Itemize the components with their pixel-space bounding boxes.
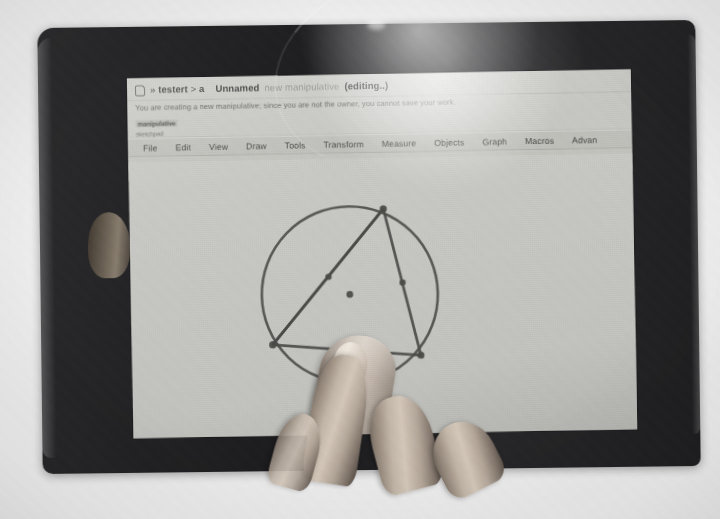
menu-item-macros[interactable]: Macros — [516, 135, 563, 146]
photograph: » testert > a Unnamed new manipulative (… — [0, 0, 720, 519]
menu-item-objects[interactable]: Objects — [425, 137, 473, 148]
glass-specular-highlight — [367, 20, 385, 30]
menu-item-graph[interactable]: Graph — [473, 136, 516, 147]
breadcrumb-user[interactable]: testert — [158, 83, 188, 95]
breadcrumb-separator: > — [191, 83, 197, 94]
app-logo-icon — [135, 84, 145, 95]
geometry-point-center-O[interactable] — [346, 291, 353, 298]
document-subtitle: new manipulative — [264, 80, 339, 92]
breadcrumb-item[interactable]: a — [199, 83, 205, 94]
breadcrumb-arrow: » — [150, 83, 156, 94]
menu-item-edit[interactable]: Edit — [166, 142, 200, 153]
menu-item-tools[interactable]: Tools — [276, 140, 315, 151]
geometry-canvas[interactable] — [128, 153, 637, 438]
tablet-screen[interactable]: » testert > a Unnamed new manipulative (… — [127, 69, 638, 438]
tablet-device: » testert > a Unnamed new manipulative (… — [37, 20, 700, 474]
menu-item-transform[interactable]: Transform — [314, 138, 372, 149]
thumb-on-left-bezel — [88, 212, 131, 279]
menu-item-view[interactable]: View — [200, 141, 237, 152]
menu-item-file[interactable]: File — [134, 142, 167, 153]
triangle[interactable] — [270, 208, 421, 358]
document-state: (editing..) — [344, 79, 388, 91]
breadcrumb[interactable]: » testert > a — [150, 83, 205, 95]
status-badge: manipulative — [136, 120, 178, 128]
document-title: Unnamed — [215, 82, 259, 94]
geometry-point-vertex-B[interactable] — [417, 351, 424, 358]
menu-item-advanced[interactable]: Advan — [563, 134, 606, 145]
menu-item-measure[interactable]: Measure — [373, 138, 426, 149]
menu-item-draw[interactable]: Draw — [237, 140, 276, 151]
